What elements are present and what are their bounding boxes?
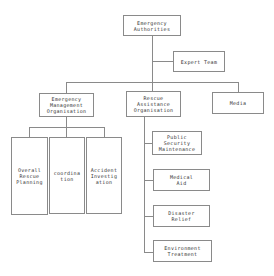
connector-management-bar bbox=[29, 127, 105, 128]
connector-accident bbox=[104, 127, 105, 137]
connector-management-down bbox=[66, 116, 67, 127]
node-rescue-assistance: Rescue Assistance Organisation bbox=[126, 91, 181, 117]
node-disaster-relief: Disaster Relief bbox=[153, 205, 210, 227]
node-public-security: Public Security Maintenance bbox=[152, 131, 202, 155]
connector-media bbox=[238, 82, 239, 92]
connector-root-down bbox=[152, 35, 153, 82]
connector-coordination bbox=[66, 127, 67, 137]
connector-disaster bbox=[144, 216, 153, 217]
connector-medical bbox=[144, 180, 153, 181]
node-emergency-management: Emergency Management Organisation bbox=[39, 93, 94, 117]
node-overall-rescue-planning: Overall Rescue Planning bbox=[11, 137, 48, 215]
node-expert-team: Expert Team bbox=[173, 51, 225, 72]
node-accident-investigation: Accident Investig ation bbox=[86, 137, 122, 214]
connector-public-security bbox=[144, 143, 152, 144]
connector-overall bbox=[29, 127, 30, 137]
node-environment-treatment: Environment Treatment bbox=[153, 240, 212, 262]
connector-rescue-down bbox=[144, 116, 145, 253]
node-medical-aid: Medical Aid bbox=[153, 169, 210, 191]
node-media: Media bbox=[212, 92, 264, 114]
node-emergency-authorities: Emergency Authorities bbox=[123, 15, 181, 36]
node-coordination: coordina tion bbox=[49, 137, 85, 214]
connector-management bbox=[66, 82, 67, 93]
connector-rescue bbox=[152, 82, 153, 91]
connector-expert bbox=[152, 61, 173, 62]
connector-environment bbox=[144, 252, 153, 253]
